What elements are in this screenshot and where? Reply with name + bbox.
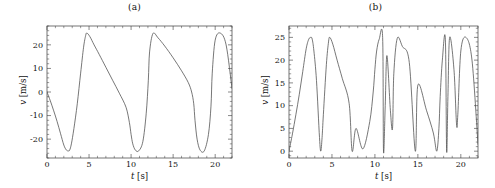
- x-tick-label: 20: [210, 160, 220, 169]
- panel-b-x-axis-label: t [s]: [364, 171, 404, 181]
- panel-b-y-axis-label: v [m/s]: [260, 70, 270, 110]
- y-tick-label: 15: [275, 79, 285, 88]
- x-tick-label: 5: [329, 160, 334, 169]
- data-curve: [289, 29, 478, 153]
- panel-a-y-axis-label: v [m/s]: [18, 70, 28, 110]
- y-tick-label: 0: [38, 88, 43, 97]
- panel-a-plot: 05101520-20-1001020: [0, 0, 247, 188]
- x-tick-label: 0: [286, 160, 291, 169]
- y-tick-label: 20: [33, 41, 43, 50]
- data-curve: [47, 33, 232, 152]
- y-tick-label: 25: [275, 33, 285, 42]
- y-tick-label: 10: [275, 101, 285, 110]
- x-tick-label: 15: [168, 160, 178, 169]
- y-tick-label: 10: [33, 64, 43, 73]
- panel-a-x-axis-label: t [s]: [120, 171, 160, 181]
- x-tick-label: 5: [86, 160, 91, 169]
- x-tick-label: 20: [456, 160, 466, 169]
- x-tick-label: 10: [126, 160, 136, 169]
- panel-a: (a) 05101520-20-1001020 v [m/s] t [s]: [0, 0, 247, 188]
- y-tick-label: -10: [30, 111, 43, 120]
- x-tick-label: 15: [413, 160, 423, 169]
- panel-b-plot: 051015200510152025: [247, 0, 494, 188]
- y-tick-label: 5: [280, 124, 285, 133]
- y-tick-label: 20: [275, 56, 285, 65]
- y-tick-label: -20: [30, 135, 43, 144]
- x-tick-label: 0: [44, 160, 49, 169]
- figure-container: (a) 05101520-20-1001020 v [m/s] t [s] (b…: [0, 0, 495, 188]
- x-tick-label: 10: [370, 160, 380, 169]
- y-tick-label: 0: [280, 147, 285, 156]
- panel-b: (b) 051015200510152025 v [m/s] t [s]: [247, 0, 494, 188]
